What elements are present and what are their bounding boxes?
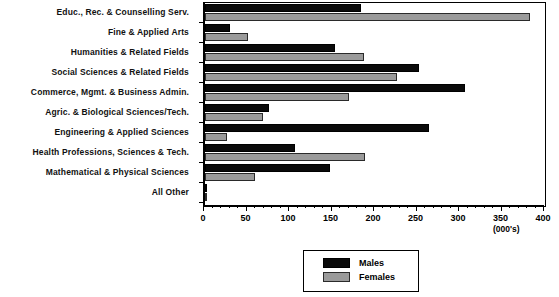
legend-label: Females xyxy=(359,271,395,283)
x-tick-minor xyxy=(229,205,230,208)
bar-group xyxy=(205,143,545,163)
x-tick-minor xyxy=(212,205,213,208)
category-label: Health Professions, Sciences & Tech. xyxy=(33,147,189,157)
category-tick xyxy=(199,202,205,203)
category-label: Mathematical & Physical Sciences xyxy=(46,167,189,177)
bar-males xyxy=(205,24,230,32)
x-tick-minor xyxy=(339,205,340,208)
x-tick-minor xyxy=(467,205,468,208)
x-tick-minor xyxy=(322,205,323,208)
x-tick-minor xyxy=(314,205,315,208)
legend-swatch-females xyxy=(323,272,350,282)
x-tick-label: 250 xyxy=(408,213,423,223)
x-tick-minor xyxy=(433,205,434,208)
bar-females xyxy=(205,153,365,161)
x-tick-minor xyxy=(492,205,493,208)
bar-group xyxy=(205,63,545,83)
x-tick-label: 300 xyxy=(450,213,465,223)
bar-females xyxy=(205,193,207,201)
bar-chart: Educ., Rec. & Counselling Serv.Fine & Ap… xyxy=(0,0,559,297)
bar-group xyxy=(205,83,545,103)
category-label: Fine & Applied Arts xyxy=(108,27,189,37)
bar-males xyxy=(205,144,295,152)
bar-group xyxy=(205,43,545,63)
x-tick-minor xyxy=(518,205,519,208)
bar-males xyxy=(205,44,335,52)
x-tick-label: 100 xyxy=(280,213,295,223)
bar-group xyxy=(205,3,545,23)
bar-males xyxy=(205,184,207,192)
x-tick-minor xyxy=(407,205,408,208)
x-tick-label: 200 xyxy=(365,213,380,223)
bar-group xyxy=(205,183,545,203)
bar-males xyxy=(205,164,330,172)
plot-area xyxy=(203,2,546,207)
bar-group xyxy=(205,123,545,143)
bar-group xyxy=(205,163,545,183)
bar-males xyxy=(205,4,361,12)
x-tick-minor xyxy=(484,205,485,208)
legend: MalesFemales xyxy=(303,250,419,292)
x-tick-major xyxy=(416,205,417,211)
x-tick-label: 150 xyxy=(323,213,338,223)
x-tick-minor xyxy=(297,205,298,208)
legend-swatch-males xyxy=(323,258,350,268)
x-axis-units-label: (000's) xyxy=(493,224,520,234)
bar-females xyxy=(205,113,263,121)
x-tick-minor xyxy=(424,205,425,208)
category-label: Agric. & Biological Sciences/Tech. xyxy=(45,107,189,117)
x-tick-minor xyxy=(237,205,238,208)
bar-females xyxy=(205,13,530,21)
category-label: Social Sciences & Related Fields xyxy=(51,67,189,77)
bar-females xyxy=(205,93,349,101)
x-tick-minor xyxy=(390,205,391,208)
x-tick-minor xyxy=(441,205,442,208)
category-axis-labels: Educ., Rec. & Counselling Serv.Fine & Ap… xyxy=(0,0,196,205)
x-tick-minor xyxy=(365,205,366,208)
x-tick-minor xyxy=(305,205,306,208)
x-tick-minor xyxy=(220,205,221,208)
category-label: All Other xyxy=(152,187,189,197)
x-tick-minor xyxy=(382,205,383,208)
x-tick-label: 50 xyxy=(240,213,250,223)
x-tick-minor xyxy=(450,205,451,208)
bar-males xyxy=(205,124,429,132)
bar-females xyxy=(205,133,227,141)
x-tick-minor xyxy=(526,205,527,208)
x-tick-label: 400 xyxy=(535,213,550,223)
x-tick-major xyxy=(203,205,204,211)
x-tick-minor xyxy=(509,205,510,208)
bar-group xyxy=(205,103,545,123)
legend-label: Males xyxy=(359,257,384,269)
x-tick-minor xyxy=(399,205,400,208)
x-tick-label: 0 xyxy=(200,213,205,223)
x-tick-major xyxy=(543,205,544,211)
x-tick-major xyxy=(246,205,247,211)
x-tick-minor xyxy=(348,205,349,208)
bar-males xyxy=(205,64,419,72)
x-tick-label: 350 xyxy=(493,213,508,223)
x-tick-major xyxy=(331,205,332,211)
x-tick-major xyxy=(458,205,459,211)
bar-group xyxy=(205,23,545,43)
x-tick-major xyxy=(373,205,374,211)
x-tick-minor xyxy=(263,205,264,208)
bar-females xyxy=(205,33,248,41)
x-tick-minor xyxy=(475,205,476,208)
x-tick-minor xyxy=(280,205,281,208)
bar-females xyxy=(205,53,364,61)
category-label: Commerce, Mgmt. & Business Admin. xyxy=(31,87,189,97)
bar-males xyxy=(205,104,269,112)
x-tick-minor xyxy=(535,205,536,208)
category-label: Humanities & Related Fields xyxy=(71,47,189,57)
bar-females xyxy=(205,73,397,81)
bar-females xyxy=(205,173,255,181)
x-tick-major xyxy=(501,205,502,211)
x-tick-minor xyxy=(271,205,272,208)
category-label: Educ., Rec. & Counselling Serv. xyxy=(57,7,190,17)
x-tick-major xyxy=(288,205,289,211)
x-tick-minor xyxy=(254,205,255,208)
x-tick-minor xyxy=(356,205,357,208)
category-label: Engineering & Applied Sciences xyxy=(54,127,189,137)
bar-males xyxy=(205,84,465,92)
